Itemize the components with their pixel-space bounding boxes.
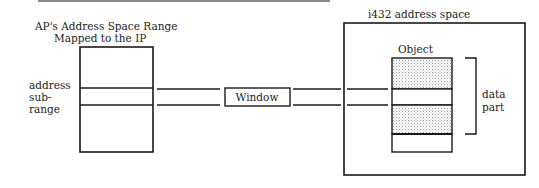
object-segment-4: [392, 134, 452, 152]
object-segment-2-window: [392, 89, 452, 105]
ap-address-space-box: [80, 47, 153, 152]
mapping-diagram: AP's Address Space Range Mapped to the I…: [0, 0, 539, 188]
object-segment-3-shaded: [392, 105, 452, 134]
subrange-label-line2: sub-: [29, 91, 52, 103]
object-segment-1-shaded: [392, 58, 452, 89]
left-title-line1: AP's Address Space Range: [34, 20, 177, 32]
object-label: Object: [398, 43, 434, 55]
subrange-label-line3: range: [29, 103, 60, 115]
left-title-line2: Mapped to the IP: [54, 32, 146, 44]
window-label: Window: [236, 91, 279, 103]
data-part-bracket: [465, 58, 476, 134]
right-title: i432 address space: [368, 8, 470, 20]
data-part-label-line1: data: [482, 88, 505, 100]
data-part-label-line2: part: [482, 101, 505, 113]
subrange-label-line1: address: [29, 79, 71, 91]
